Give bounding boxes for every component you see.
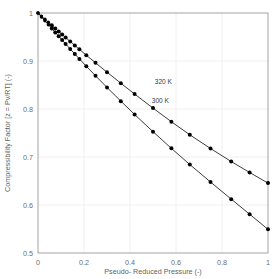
data-point (209, 146, 213, 150)
data-point (229, 160, 233, 164)
data-point (43, 19, 46, 22)
y-tick-label: 0.5 (23, 249, 33, 258)
data-point (188, 163, 192, 167)
series-label-300-k: 300 K (152, 97, 170, 104)
data-point (60, 38, 64, 42)
x-tick-label: 0.2 (79, 258, 89, 267)
chart-background (0, 0, 277, 279)
y-tick-label: 1 (29, 9, 33, 18)
data-point (68, 47, 72, 51)
data-point (151, 106, 155, 110)
data-point (64, 42, 68, 46)
data-point (248, 170, 252, 174)
series-label-320-k: 320 K (155, 78, 173, 85)
data-point (151, 130, 155, 134)
x-tick-label: 0.6 (171, 258, 181, 267)
y-tick-label: 0.9 (23, 57, 33, 66)
x-tick-label: 0.4 (125, 258, 135, 267)
data-point (229, 197, 233, 201)
data-point (77, 47, 81, 51)
compressibility-factor-chart: 00.20.40.60.81 0.50.60.70.80.91 320 K300… (0, 0, 277, 279)
y-tick-label: 0.7 (23, 153, 33, 162)
data-point (248, 212, 252, 216)
data-point (73, 43, 77, 47)
data-point (77, 57, 81, 61)
data-point (57, 34, 61, 38)
data-point (169, 120, 173, 124)
data-point (105, 70, 109, 74)
data-point (36, 11, 39, 14)
data-point (50, 27, 54, 31)
data-point (60, 32, 64, 36)
data-point (188, 133, 192, 137)
x-tick-label: 0 (36, 258, 40, 267)
data-point (94, 61, 98, 65)
data-point (47, 23, 50, 26)
data-point (209, 180, 213, 184)
chart-figure: 00.20.40.60.81 0.50.60.70.80.91 320 K300… (0, 0, 277, 279)
data-point (57, 29, 61, 33)
x-tick-label: 1 (266, 258, 270, 267)
data-point (119, 99, 123, 103)
data-point (84, 64, 88, 68)
data-point (266, 227, 270, 231)
y-tick-label: 0.8 (23, 105, 33, 114)
y-tick-label: 0.6 (23, 201, 33, 210)
data-point (84, 53, 88, 57)
data-point (53, 26, 57, 30)
data-point (73, 52, 77, 56)
data-point (266, 181, 270, 185)
y-axis-title: Compressibility Factor [z = Pv/RT] (-) (3, 74, 12, 192)
data-point (94, 74, 98, 78)
data-point (133, 92, 137, 96)
data-point (169, 146, 173, 150)
data-point (40, 15, 43, 18)
data-point (119, 81, 123, 85)
data-point (105, 85, 109, 89)
x-axis-title: Pseudo- Reduced Pressure (-) (104, 267, 201, 276)
data-point (68, 39, 72, 43)
data-point (64, 35, 68, 39)
data-point (133, 112, 137, 116)
x-tick-label: 0.8 (217, 258, 227, 267)
data-point (53, 30, 57, 34)
